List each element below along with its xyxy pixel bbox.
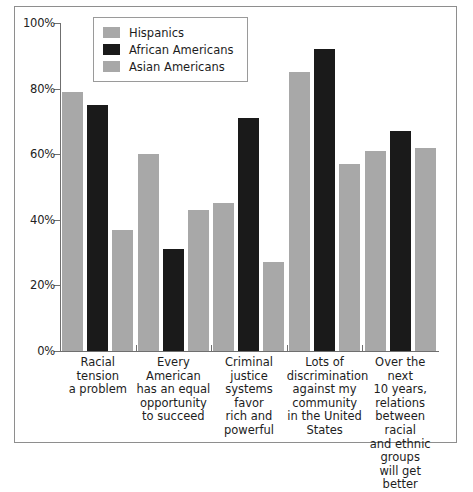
- bar-hispanics: [138, 154, 159, 351]
- category-label-line: Criminal: [211, 356, 287, 370]
- bar-asian-americans: [112, 230, 133, 351]
- chart-container: 0%20%40%60%80%100% HispanicsAfrican Amer…: [14, 6, 457, 443]
- bar-african-americans: [314, 49, 335, 351]
- chart-legend: HispanicsAfrican AmericansAsian American…: [93, 17, 248, 82]
- bar-asian-americans: [415, 148, 436, 351]
- category-label: Lots ofdiscriminationagainst mycommunity…: [287, 356, 363, 438]
- category-label-line: opportunity: [136, 397, 212, 411]
- bar-hispanics: [213, 203, 234, 351]
- y-axis-tick-label: 0%: [37, 344, 55, 358]
- category-label-line: Every American: [136, 356, 212, 383]
- legend-item[interactable]: African Americans: [103, 41, 233, 58]
- y-axis-tick-label: 100%: [23, 16, 55, 30]
- legend-swatch-icon: [103, 61, 120, 72]
- category-label-line: in the United: [287, 410, 363, 424]
- category-label-line: discrimination: [287, 370, 363, 384]
- category-label-line: Lots of: [287, 356, 363, 370]
- legend-item-label: Asian Americans: [129, 60, 225, 74]
- bar-group: [287, 23, 363, 351]
- legend-item[interactable]: Hispanics: [103, 24, 233, 41]
- bar-hispanics: [365, 151, 386, 351]
- category-label-line: against my: [287, 383, 363, 397]
- bar-african-americans: [238, 118, 259, 351]
- category-label-line: States: [287, 424, 363, 438]
- category-label-line: relations: [362, 397, 438, 411]
- category-label-line: powerful: [211, 424, 287, 438]
- category-label: Every Americanhas an equalopportunityto …: [136, 356, 212, 424]
- category-label-line: systems favor: [211, 383, 287, 410]
- bar-asian-americans: [263, 262, 284, 351]
- x-axis-line: [60, 351, 439, 352]
- category-label-line: a problem: [60, 383, 136, 397]
- category-label-line: groups: [362, 451, 438, 465]
- bar-african-americans: [163, 249, 184, 351]
- y-axis-tick-label: 40%: [30, 213, 55, 227]
- category-label-line: between racial: [362, 410, 438, 437]
- category-label-line: has an equal: [136, 383, 212, 397]
- y-axis-tick-label: 20%: [30, 278, 55, 292]
- bar-hispanics: [289, 72, 310, 351]
- bar-african-americans: [390, 131, 411, 351]
- category-label-line: to succeed: [136, 410, 212, 424]
- category-label-line: and ethnic: [362, 438, 438, 452]
- y-axis-tick: [54, 351, 61, 352]
- legend-item-label: Hispanics: [129, 26, 184, 40]
- category-label-line: Over the next: [362, 356, 438, 383]
- category-label-line: justice: [211, 370, 287, 384]
- category-label-line: community: [287, 397, 363, 411]
- category-label: Racial tensiona problem: [60, 356, 136, 397]
- legend-item-label: African Americans: [129, 43, 233, 57]
- legend-swatch-icon: [103, 27, 120, 38]
- category-label-line: will get better: [362, 465, 438, 492]
- bar-group: [362, 23, 438, 351]
- x-axis-category-labels: Racial tensiona problemEvery Americanhas…: [60, 356, 439, 442]
- category-label-line: 10 years,: [362, 383, 438, 397]
- bar-hispanics: [62, 92, 83, 351]
- bar-african-americans: [87, 105, 108, 351]
- category-label: Over the next10 years,relationsbetween r…: [362, 356, 438, 492]
- category-label-line: Racial tension: [60, 356, 136, 383]
- bar-asian-americans: [339, 164, 360, 351]
- y-axis-tick-label: 80%: [30, 82, 55, 96]
- category-label-line: rich and: [211, 410, 287, 424]
- legend-swatch-icon: [103, 44, 120, 55]
- category-label: Criminaljusticesystems favorrich andpowe…: [211, 356, 287, 438]
- y-axis-tick-label: 60%: [30, 147, 55, 161]
- bar-asian-americans: [188, 210, 209, 351]
- legend-item[interactable]: Asian Americans: [103, 58, 233, 75]
